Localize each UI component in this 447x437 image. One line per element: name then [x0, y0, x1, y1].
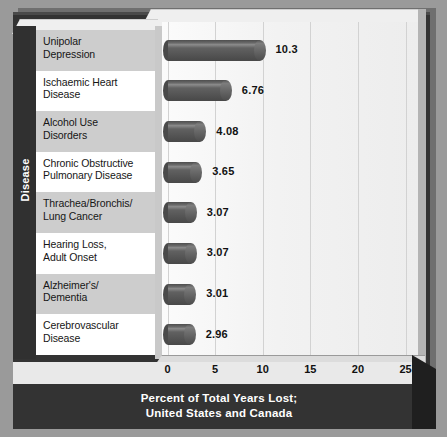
category-label-line1: Unipolar — [43, 35, 155, 48]
category-label-column: UnipolarDepressionIschaemic HeartDisease… — [36, 30, 155, 355]
bar-value-label: 3.01 — [206, 287, 228, 299]
bar-end-cap — [185, 243, 197, 264]
category-label: UnipolarDepression — [36, 30, 155, 71]
chart-canvas: Disease UnipolarDepressionIschaemic Hear… — [0, 0, 447, 437]
category-label: Ischaemic HeartDisease — [36, 71, 155, 112]
bar-end-cap — [184, 324, 196, 345]
bar-end-cap — [254, 40, 266, 61]
bar-end-cap — [194, 121, 206, 142]
category-label: Alcohol UseDisorders — [36, 111, 155, 152]
x-axis-tick-label: 25 — [399, 363, 411, 375]
bar — [168, 162, 203, 183]
category-label: Chronic ObstructivePulmonary Disease — [36, 152, 155, 193]
plot-area — [162, 22, 418, 355]
bar — [168, 243, 197, 264]
bar — [168, 202, 197, 223]
category-label-line1: Cerebrovascular — [43, 319, 155, 332]
category-label: Hearing Loss,Adult Onset — [36, 233, 155, 274]
category-label-line1: Ischaemic Heart — [43, 76, 155, 89]
label-column-edge — [155, 26, 162, 359]
bar-value-label: 3.07 — [207, 246, 229, 258]
y-axis-title: Disease — [19, 132, 31, 228]
category-label-line2: Depression — [43, 48, 155, 61]
chart-title: Percent of Total Years Lost; United Stat… — [13, 384, 425, 429]
category-label-line1: Chronic Obstructive — [43, 157, 155, 170]
bar-end-cap — [190, 162, 202, 183]
bar-end-cap — [184, 284, 196, 305]
bar — [168, 121, 207, 142]
category-label: Thrachea/Bronchis/Lung Cancer — [36, 192, 155, 233]
chart-title-line2: United States and Canada — [13, 406, 425, 421]
chart-title-line1: Percent of Total Years Lost; — [141, 392, 298, 404]
plot-right-face — [418, 9, 426, 379]
gridline — [215, 22, 216, 355]
category-label-line2: Lung Cancer — [43, 210, 155, 223]
bar-value-label: 6.76 — [242, 84, 264, 96]
category-label-line2: Disease — [43, 88, 155, 101]
y-axis-title-band: Disease — [13, 26, 36, 359]
gridline — [263, 22, 264, 355]
bar-value-label: 3.07 — [207, 206, 229, 218]
bar — [168, 80, 232, 101]
category-label-line2: Disease — [43, 332, 155, 345]
category-label: Alzheimer's/Dementia — [36, 274, 155, 315]
bar-end-cap — [185, 202, 197, 223]
bar — [168, 284, 197, 305]
bar-value-label: 4.08 — [216, 125, 238, 137]
category-label-line2: Dementia — [43, 291, 155, 304]
x-axis-tick-label: 10 — [257, 363, 269, 375]
x-axis-tick-label: 5 — [212, 363, 218, 375]
x-axis-tick-label: 15 — [304, 363, 316, 375]
bar-value-label: 3.65 — [212, 165, 234, 177]
bar-body — [168, 40, 260, 61]
bar-value-label: 2.96 — [206, 328, 228, 340]
gridline — [310, 22, 311, 355]
x-axis-tick-label: 0 — [164, 363, 170, 375]
gridline — [168, 22, 169, 355]
x-axis-tick-label: 20 — [352, 363, 364, 375]
category-label-line1: Thrachea/Bronchis/ — [43, 197, 155, 210]
bar — [168, 40, 266, 61]
category-label-line2: Adult Onset — [43, 251, 155, 264]
category-label-line1: Alzheimer's/ — [43, 279, 155, 292]
bar-value-label: 10.3 — [276, 43, 298, 55]
gridline — [406, 22, 407, 355]
plot-background — [162, 22, 418, 355]
bar-body — [168, 80, 226, 101]
category-label-line2: Pulmonary Disease — [43, 169, 155, 182]
category-label-line1: Alcohol Use — [43, 116, 155, 129]
category-label-line1: Hearing Loss, — [43, 238, 155, 251]
gridline — [358, 22, 359, 355]
bar — [168, 324, 196, 345]
category-label: CerebrovascularDisease — [36, 314, 155, 355]
category-label-line2: Disorders — [43, 129, 155, 142]
bar-end-cap — [220, 80, 232, 101]
